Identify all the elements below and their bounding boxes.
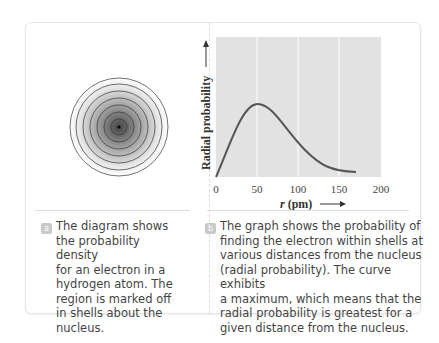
y-axis-label: Radial probability (200, 76, 213, 170)
svg-text:50: 50 (252, 183, 264, 195)
nucleus-dot (118, 126, 121, 129)
svg-text:0: 0 (213, 183, 219, 195)
panel-a-caption: The diagram shows the probability densit… (56, 219, 181, 335)
panel-a-badge: a (41, 223, 52, 234)
panel-b-caption: The graph shows the probability of findi… (220, 219, 425, 335)
panel-b-badge: b (205, 223, 216, 234)
svg-text:150: 150 (331, 183, 348, 195)
panel-b-separator (207, 210, 409, 211)
svg-text:200: 200 (373, 183, 390, 195)
svg-text:100: 100 (290, 183, 307, 195)
radial-probability-chart: 0 50 100 150 200 r (pm) Radial probabili… (200, 25, 410, 210)
panel-a-separator (35, 210, 190, 211)
x-axis-label: r (pm) (280, 197, 312, 210)
atom-shell-diagram (69, 77, 169, 177)
